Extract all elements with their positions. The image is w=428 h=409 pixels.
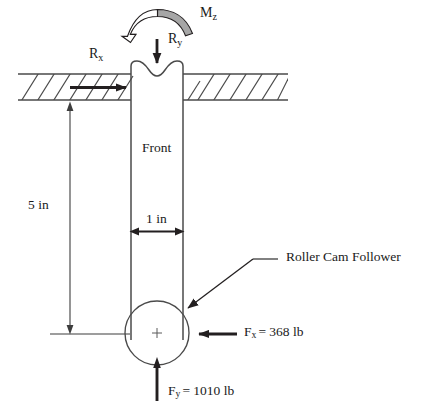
width-dimension-1in xyxy=(130,227,185,235)
diagram-canvas: Mz Ry Rx Front 5 in 1 in Roller Cam Foll… xyxy=(0,0,428,409)
length-dimension-label: 5 in xyxy=(28,198,49,212)
leader-line-icon xyxy=(188,259,278,308)
force-fy-label: Fy= 1010 lb xyxy=(168,384,234,398)
front-face-label: Front xyxy=(142,141,171,155)
roller-cam-follower-label: Roller Cam Follower xyxy=(286,250,401,264)
free-body-diagram-svg xyxy=(0,0,428,409)
follower-rod-shape xyxy=(131,61,183,340)
width-dimension-label: 1 in xyxy=(146,212,167,226)
center-crosshair-icon xyxy=(152,328,162,338)
reaction-ry-label: Ry xyxy=(168,32,182,46)
force-fy-arrow xyxy=(153,357,161,401)
moment-label: Mz xyxy=(200,6,217,20)
reaction-rx-label: Rx xyxy=(89,47,103,61)
force-fx-label: Fx= 368 lb xyxy=(244,325,304,339)
length-dimension-5in xyxy=(50,102,130,335)
roller-circle xyxy=(125,301,189,365)
